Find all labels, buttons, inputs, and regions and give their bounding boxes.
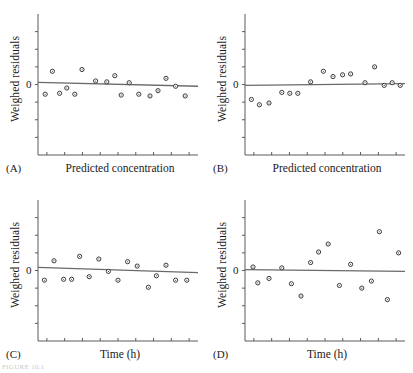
panel-a: Weighed residuals 0 (A) Predicted concen… — [0, 0, 206, 186]
panel-letter-c: (C) — [6, 348, 21, 360]
plot-area-d — [207, 186, 413, 372]
plot-area-a — [0, 0, 206, 186]
residual-plots-figure: Weighed residuals 0 (A) Predicted concen… — [0, 0, 413, 373]
panel-d: Weighed residuals 0 (D) Time (h) — [207, 186, 413, 372]
plot-area-c — [0, 186, 206, 372]
panel-b: Weighed residuals 0 (B) Predicted concen… — [207, 0, 413, 186]
plot-area-b — [207, 0, 413, 186]
panel-letter-d: (D) — [213, 348, 228, 360]
panel-letter-b: (B) — [213, 162, 228, 174]
x-axis-label-c: Time (h) — [40, 348, 200, 360]
x-axis-label-a: Predicted concentration — [40, 162, 200, 174]
panel-letter-a: (A) — [6, 162, 21, 174]
x-axis-label-d: Time (h) — [247, 348, 407, 360]
x-axis-label-b: Predicted concentration — [247, 162, 407, 174]
figure-caption-fragment: FIGURE 10.1 — [2, 363, 262, 373]
panel-c: Weighed residuals 0 (C) Time (h) — [0, 186, 206, 372]
